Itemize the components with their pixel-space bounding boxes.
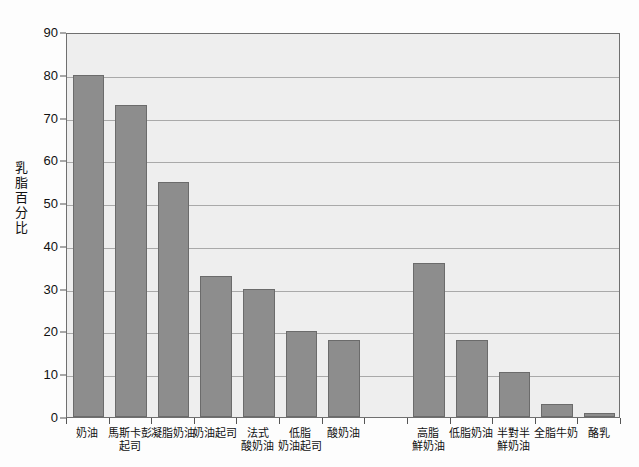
x-axis-tick-mark — [109, 418, 110, 424]
bar — [158, 182, 190, 417]
x-axis-tick-mark — [577, 418, 578, 424]
bar — [584, 413, 616, 417]
bar — [456, 340, 488, 417]
y-axis-tick-label: 90 — [32, 25, 58, 40]
x-axis-tick-label: 酸奶油 — [327, 427, 360, 440]
y-axis-title-char: 比 — [12, 220, 30, 235]
x-axis-tick-mark — [364, 418, 365, 424]
x-axis-tick-label: 低脂奶油 — [449, 427, 493, 440]
bar — [413, 263, 445, 417]
x-axis-tick-label-line: 酸奶油 — [327, 427, 360, 440]
x-axis-tick-label: 奶油 — [76, 427, 98, 440]
y-axis-tick-label: 60 — [32, 153, 58, 168]
x-axis-tick-mark — [620, 418, 621, 424]
bar — [328, 340, 360, 417]
y-axis-tick-label: 40 — [32, 239, 58, 254]
x-axis-tick-label: 半對半鮮奶油 — [497, 427, 530, 453]
y-axis-tick-label: 80 — [32, 68, 58, 83]
gridline — [67, 77, 619, 78]
x-axis-tick-mark — [194, 418, 195, 424]
x-axis-tick-label-line: 高脂 — [412, 427, 445, 440]
x-axis-tick-label-line: 奶油起司 — [278, 440, 322, 453]
x-axis-tick-label-line: 半對半 — [497, 427, 530, 440]
x-axis-tick-label: 高脂鮮奶油 — [412, 427, 445, 453]
x-axis-tick-mark — [492, 418, 493, 424]
bar — [243, 289, 275, 417]
bar — [115, 105, 147, 417]
x-axis-tick-label: 法式酸奶油 — [241, 427, 274, 453]
gridline — [67, 205, 619, 206]
bar — [73, 75, 105, 417]
y-axis-title-char: 脂 — [12, 175, 30, 190]
x-axis-tick-label-line: 鮮奶油 — [412, 440, 445, 453]
x-axis-tick-label-line: 酸奶油 — [241, 440, 274, 453]
bar — [200, 276, 232, 417]
y-axis-tick-label: 20 — [32, 324, 58, 339]
gridline — [67, 248, 619, 249]
y-axis-tick-label: 30 — [32, 282, 58, 297]
x-axis-tick-mark — [407, 418, 408, 424]
x-axis-tick-label-line: 奶油 — [76, 427, 98, 440]
x-axis-tick-label-line: 鮮奶油 — [497, 440, 530, 453]
x-axis-tick-label-line: 起司 — [108, 440, 152, 453]
x-axis-tick-label-line: 法式 — [241, 427, 274, 440]
x-axis-tick-mark — [279, 418, 280, 424]
x-axis-tick-label-line: 凝脂奶油 — [151, 427, 195, 440]
y-axis-title-char: 分 — [12, 205, 30, 220]
bar — [286, 331, 318, 417]
x-axis-tick-mark — [322, 418, 323, 424]
y-axis-title-char: 百 — [12, 190, 30, 205]
y-axis-tick-label: 0 — [32, 410, 58, 425]
x-axis-tick-label: 全脂牛奶 — [534, 427, 578, 440]
x-axis-tick-label-line: 酪乳 — [588, 427, 610, 440]
gridline — [67, 120, 619, 121]
y-axis-title-char: 乳 — [12, 160, 30, 175]
gridline — [67, 333, 619, 334]
x-axis-tick-label: 奶油起司 — [193, 427, 237, 440]
gridline — [67, 291, 619, 292]
x-axis-tick-mark — [236, 418, 237, 424]
x-axis-tick-label-line: 低脂 — [278, 427, 322, 440]
x-axis-tick-mark — [151, 418, 152, 424]
plot-area — [66, 33, 620, 418]
x-axis-tick-label-line: 奶油起司 — [193, 427, 237, 440]
gridline — [67, 162, 619, 163]
x-axis-tick-mark — [450, 418, 451, 424]
x-axis-tick-label-line: 馬斯卡彭 — [108, 427, 152, 440]
x-axis-tick-label-line: 全脂牛奶 — [534, 427, 578, 440]
y-axis-tick-label: 10 — [32, 367, 58, 382]
bar — [541, 404, 573, 417]
y-axis-tick-label: 50 — [32, 196, 58, 211]
y-axis-tick-label: 70 — [32, 111, 58, 126]
bar-chart: 乳脂百分比 0102030405060708090 奶油馬斯卡彭起司凝脂奶油奶油… — [0, 0, 639, 467]
x-axis-tick-label: 酪乳 — [588, 427, 610, 440]
x-axis-tick-mark — [535, 418, 536, 424]
bar — [499, 372, 531, 417]
x-axis-tick-mark — [66, 418, 67, 424]
y-axis-title: 乳脂百分比 — [12, 160, 30, 235]
x-axis-tick-label-line: 低脂奶油 — [449, 427, 493, 440]
x-axis-tick-label: 馬斯卡彭起司 — [108, 427, 152, 453]
x-axis-tick-label: 低脂奶油起司 — [278, 427, 322, 453]
x-axis-tick-label: 凝脂奶油 — [151, 427, 195, 440]
